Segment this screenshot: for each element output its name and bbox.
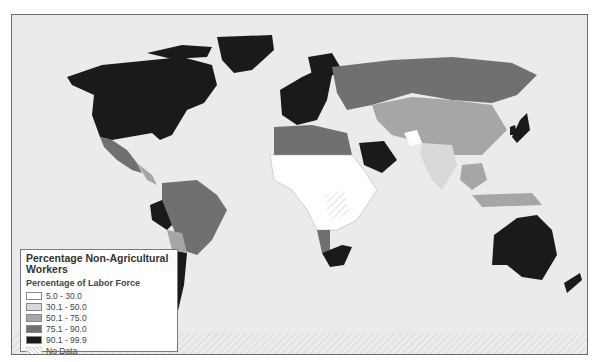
legend-swatch <box>26 336 42 344</box>
region-canada-islands <box>147 45 212 59</box>
region-greenland <box>217 35 274 73</box>
legend-label: 5.0 - 30.0 <box>46 291 82 301</box>
legend-item: 90.1 - 99.9 <box>26 334 172 345</box>
region-north-america <box>67 57 217 140</box>
legend-label: 90.1 - 99.9 <box>46 335 87 345</box>
legend-item: No Data <box>26 345 172 355</box>
legend-swatch <box>26 325 42 333</box>
legend-label: 50.1 - 75.0 <box>46 313 87 323</box>
region-mexico <box>100 137 142 173</box>
region-india <box>420 143 457 190</box>
legend-swatch <box>26 303 42 311</box>
legend-item: 50.1 - 75.0 <box>26 312 172 323</box>
region-africa <box>270 155 377 230</box>
region-korea <box>510 125 517 135</box>
legend-swatch <box>26 292 42 300</box>
legend-item: 5.0 - 30.0 <box>26 290 172 301</box>
legend-title: Percentage Non-Agricultural Workers <box>26 253 172 275</box>
legend-subtitle: Percentage of Labor Force <box>26 278 172 288</box>
legend-label: No Data <box>46 346 77 356</box>
legend-swatch <box>26 314 42 322</box>
region-central-america <box>137 163 157 185</box>
legend-item: 75.1 - 90.0 <box>26 323 172 334</box>
region-southeast-asia <box>460 163 487 190</box>
region-australia <box>492 215 557 280</box>
legend-label: 75.1 - 90.0 <box>46 324 87 334</box>
map-frame: Percentage Non-Agricultural Workers Perc… <box>11 14 588 355</box>
region-namibia <box>317 230 330 253</box>
region-indonesia <box>472 193 542 207</box>
legend-swatch <box>26 347 42 355</box>
region-saudi-arabia <box>359 141 397 173</box>
map-legend: Percentage Non-Agricultural Workers Perc… <box>20 249 178 352</box>
legend-item: 30.1 - 50.0 <box>26 301 172 312</box>
legend-label: 30.1 - 50.0 <box>46 302 87 312</box>
region-new-zealand <box>564 273 582 293</box>
